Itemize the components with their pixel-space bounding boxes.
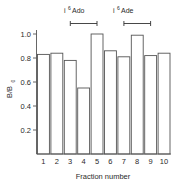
x-tick-label-10: 10 (160, 157, 168, 166)
x-axis: 1 2 3 4 5 6 7 8 9 10 Fraction number (37, 154, 172, 181)
bars-group (38, 34, 171, 154)
x-tick-label-3: 3 (68, 157, 72, 166)
bar-fraction-7[interactable] (118, 57, 130, 154)
x-tick-label-1: 1 (41, 157, 45, 166)
bar-fraction-6[interactable] (105, 51, 117, 154)
x-axis-title: Fraction number (76, 172, 131, 181)
x-tick-label-8: 8 (135, 157, 139, 166)
y-tick-label-0.6: 0.6 (21, 78, 31, 87)
chart-figure: i 6 Ado i 6 Ade 1.0 0.8 0.6 0.4 0.2 (0, 0, 173, 185)
annotation-bracket-i6ado: i 6 Ado (64, 5, 97, 26)
annotation-label-i6ade-suffix: Ade (121, 7, 134, 14)
y-axis-title-main: B/B (5, 86, 14, 98)
bar-chart-svg: i 6 Ado i 6 Ade 1.0 0.8 0.6 0.4 0.2 (0, 0, 173, 185)
y-tick-label-0.2: 0.2 (21, 126, 31, 135)
y-tick-label-0.8: 0.8 (21, 54, 31, 63)
x-tick-label-9: 9 (149, 157, 153, 166)
bar-fraction-4[interactable] (78, 88, 90, 154)
y-axis: 1.0 0.8 0.6 0.4 0.2 B/B 0 (5, 30, 37, 154)
bar-fraction-2[interactable] (51, 53, 63, 154)
bar-fraction-10[interactable] (158, 53, 170, 154)
bar-fraction-5[interactable] (91, 34, 103, 154)
y-axis-title: B/B 0 (5, 79, 16, 98)
bar-fraction-8[interactable] (131, 35, 143, 154)
annotation-label-i6ado-suffix: Ado (72, 7, 85, 14)
bracket-line-i6ade (124, 21, 151, 26)
x-tick-label-5: 5 (95, 157, 99, 166)
x-tick-label-7: 7 (122, 157, 126, 166)
annotation-label-i6ade-prefix: i (113, 7, 115, 14)
bar-fraction-3[interactable] (64, 60, 76, 154)
annotation-label-i6ado-prefix: i (64, 7, 66, 14)
x-tick-label-6: 6 (108, 157, 112, 166)
bracket-line-i6ado (70, 21, 97, 26)
bar-fraction-1[interactable] (38, 54, 50, 154)
bar-fraction-9[interactable] (145, 56, 157, 154)
y-tick-label-1.0: 1.0 (21, 30, 31, 39)
annotation-label-i6ade-superscript: 6 (117, 5, 120, 11)
x-tick-label-2: 2 (55, 157, 59, 166)
y-axis-title-subscript: 0 (10, 79, 16, 82)
y-tick-label-0.4: 0.4 (21, 102, 31, 111)
annotation-label-i6ado-superscript: 6 (68, 5, 71, 11)
x-tick-label-4: 4 (82, 157, 86, 166)
annotation-bracket-i6ade: i 6 Ade (113, 5, 151, 26)
